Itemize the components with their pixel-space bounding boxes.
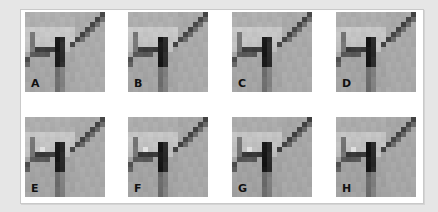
thumbnail-label: D: [342, 78, 351, 89]
thumbnail-a: A: [25, 12, 105, 92]
thumbnail-d: D: [336, 12, 416, 92]
thumbnail-f: F: [128, 117, 208, 197]
thumbnail-h: H: [336, 117, 416, 197]
thumbnail-e: E: [25, 117, 105, 197]
thumbnail-label: H: [342, 183, 351, 194]
thumbnail-label: A: [31, 78, 40, 89]
thumbnail-label: B: [134, 78, 142, 89]
thumbnail-label: C: [238, 78, 246, 89]
thumbnail-b: B: [128, 12, 208, 92]
thumbnail-g: G: [232, 117, 312, 197]
thumbnail-label: F: [134, 183, 142, 194]
thumbnail-c: C: [232, 12, 312, 92]
thumbnail-label: G: [238, 183, 247, 194]
thumbnail-label: E: [31, 183, 39, 194]
